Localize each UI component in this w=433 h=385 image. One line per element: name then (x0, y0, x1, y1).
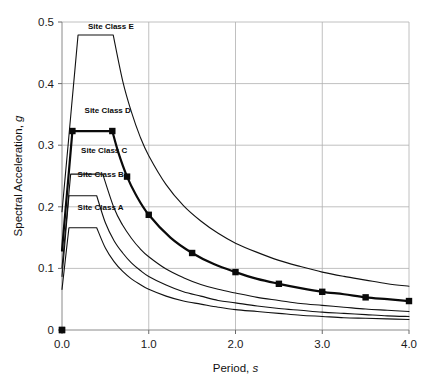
data-point-marker (276, 281, 282, 287)
y-axis-title: Spectral Acceleration, g (12, 115, 24, 236)
x-tick-label: 4.0 (401, 338, 417, 350)
x-tick-label: 0.0 (54, 338, 70, 350)
x-tick-label: 1.0 (141, 338, 157, 350)
data-point-marker (189, 250, 195, 256)
x-axis-title-main: Period, (213, 362, 253, 374)
y-tick-label: 0.4 (38, 78, 55, 90)
y-axis-title-main: Spectral Acceleration, (12, 122, 24, 236)
data-point-marker (232, 269, 238, 275)
y-tick-label: 0.2 (38, 201, 54, 213)
origin-marker (59, 327, 65, 333)
y-tick-label: 0.1 (38, 262, 54, 274)
chart-canvas: Site Class ASite Class BSite Class CSite… (0, 0, 433, 385)
data-point-marker (69, 128, 75, 134)
series-label-site-class-a: Site Class A (78, 203, 124, 212)
data-point-marker (109, 128, 115, 134)
y-axis-title-unit: g (12, 115, 24, 122)
series-label-site-class-d: Site Class D (85, 106, 131, 115)
design-response-spectra-chart: Site Class ASite Class BSite Class CSite… (0, 0, 433, 385)
data-point-marker (124, 173, 130, 179)
data-point-marker (406, 298, 412, 304)
y-tick-label: 0.5 (38, 16, 54, 28)
series-label-site-class-e: Site Class E (88, 22, 134, 31)
tick-labels-group: 00.10.20.30.40.50.01.02.03.04.0 (38, 16, 417, 350)
series-label-site-class-b: Site Class B (78, 170, 124, 179)
data-point-marker (362, 294, 368, 300)
x-tick-label: 3.0 (314, 338, 330, 350)
data-point-marker (319, 289, 325, 295)
y-tick-label: 0.3 (38, 139, 54, 151)
series-label-site-class-c: Site Class C (81, 146, 127, 155)
x-axis-title: Period, s (213, 362, 259, 374)
x-tick-label: 2.0 (228, 338, 244, 350)
data-point-marker (146, 212, 152, 218)
y-tick-label: 0 (48, 324, 54, 336)
x-axis-title-unit: s (252, 362, 258, 374)
